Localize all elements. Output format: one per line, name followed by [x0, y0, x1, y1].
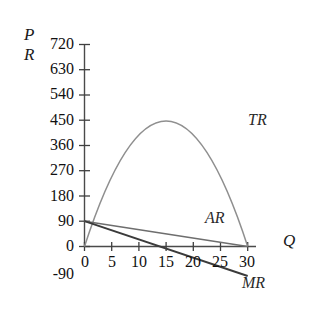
- series-label-mr: MR: [242, 275, 265, 291]
- x-tick-label-25: 25: [207, 254, 233, 270]
- x-tick-label-5: 5: [101, 254, 123, 270]
- series-label-ar: AR: [205, 210, 225, 226]
- x-axis-title-q: Q: [283, 232, 295, 249]
- y-tick-label-720: 720: [30, 36, 74, 52]
- y-tick-label-minus-90: -90: [26, 266, 74, 282]
- axes-group: [84, 44, 256, 247]
- y-tick-label-90: 90: [30, 213, 74, 229]
- x-tick-label-15: 15: [153, 254, 179, 270]
- x-tick-label-0: 0: [74, 254, 96, 270]
- y-tick-label-0: 0: [30, 238, 74, 254]
- series-tr-curve: [85, 121, 248, 247]
- x-tick-label-30: 30: [234, 254, 260, 270]
- x-tick-label-10: 10: [126, 254, 152, 270]
- y-tick-label-630: 630: [30, 61, 74, 77]
- y-tick-label-270: 270: [30, 162, 74, 178]
- revenue-chart: P R Q 720 630 540 450 360 270 180 90 0 -…: [0, 0, 320, 314]
- y-tick-label-180: 180: [30, 188, 74, 204]
- y-tick-label-540: 540: [30, 86, 74, 102]
- x-tick-label-20: 20: [180, 254, 206, 270]
- y-tick-label-450: 450: [30, 112, 74, 128]
- series-label-tr: TR: [248, 112, 267, 128]
- y-tick-label-360: 360: [30, 137, 74, 153]
